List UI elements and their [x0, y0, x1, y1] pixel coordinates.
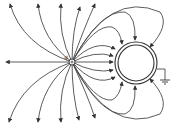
- point-charge: q: [64, 53, 75, 65]
- conducting-sphere: [115, 42, 157, 84]
- charge-label: q: [64, 53, 68, 61]
- field-lines-svg: q: [0, 0, 175, 132]
- outgoing-field-lines: [6, 4, 95, 122]
- ground-icon: [157, 69, 170, 84]
- field-diagram: q: [0, 0, 175, 132]
